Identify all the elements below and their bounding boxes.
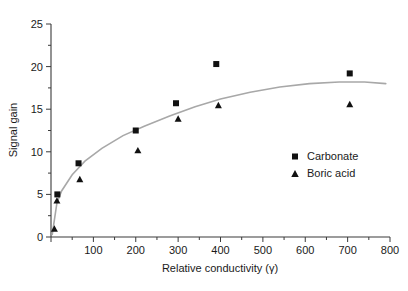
y-axis: 0510152025 bbox=[31, 18, 51, 243]
x-tick-label: 400 bbox=[211, 244, 229, 256]
x-tick-label: 100 bbox=[84, 244, 102, 256]
y-tick-label: 20 bbox=[31, 61, 43, 73]
x-axis: 100200300400500600700800 bbox=[51, 237, 399, 256]
legend-marker-triangle bbox=[291, 170, 299, 177]
data-series bbox=[51, 61, 353, 232]
y-tick-label: 15 bbox=[31, 103, 43, 115]
x-tick-label: 700 bbox=[338, 244, 356, 256]
x-tick-label: 200 bbox=[127, 244, 145, 256]
x-tick-label: 300 bbox=[169, 244, 187, 256]
x-tick-label: 800 bbox=[381, 244, 399, 256]
x-axis-title: Relative conductivity (γ) bbox=[162, 262, 278, 274]
y-tick-label: 10 bbox=[31, 146, 43, 158]
x-tick-label: 600 bbox=[296, 244, 314, 256]
legend-label: Boric acid bbox=[307, 167, 355, 179]
y-tick-label: 0 bbox=[37, 231, 43, 243]
legend-label: Carbonate bbox=[307, 150, 358, 162]
chart-figure: 0510152025 100200300400500600700800 Carb… bbox=[0, 0, 408, 291]
signal-gain-scatter-chart: 0510152025 100200300400500600700800 Carb… bbox=[0, 0, 408, 291]
data-point-triangle bbox=[346, 101, 353, 107]
data-point-square bbox=[133, 128, 139, 134]
y-axis-title: Signal gain bbox=[7, 103, 19, 157]
x-tick-label: 500 bbox=[254, 244, 272, 256]
data-point-square bbox=[347, 70, 353, 76]
y-tick-label: 5 bbox=[37, 188, 43, 200]
chart-legend: CarbonateBoric acid bbox=[291, 150, 358, 179]
data-point-triangle bbox=[76, 176, 83, 182]
legend-marker-square bbox=[292, 154, 298, 160]
data-point-triangle bbox=[175, 115, 182, 121]
data-point-triangle bbox=[134, 147, 141, 153]
data-point-square bbox=[213, 61, 219, 67]
data-point-square bbox=[54, 191, 60, 197]
data-point-triangle bbox=[215, 102, 222, 108]
data-point-square bbox=[76, 160, 82, 166]
data-point-square bbox=[173, 100, 179, 106]
y-tick-label: 25 bbox=[31, 18, 43, 30]
data-point-triangle bbox=[51, 225, 58, 231]
